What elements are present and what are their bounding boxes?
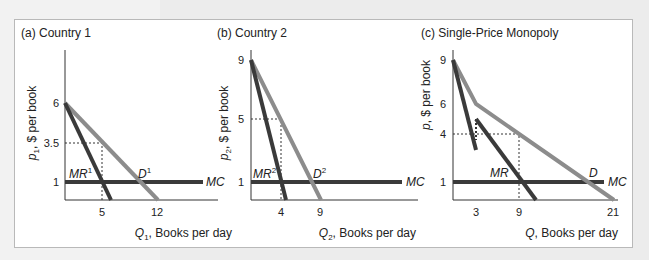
panel-c-x-label: Q, Books per day — [525, 226, 618, 240]
panel-c-mr-line-upper — [453, 60, 476, 150]
panel-b-ytick-9: 9 — [238, 54, 244, 66]
chart-svg: (a) Country 1 p1, $ per book 6 3.5 1 5 1… — [0, 0, 649, 260]
panel-c-xtick-3: 3 — [473, 206, 479, 218]
panel-a-xtick-12: 12 — [151, 206, 163, 218]
panel-a-ytick-6: 6 — [53, 97, 59, 109]
panel-a-x-label: Q1, Books per day — [135, 226, 232, 242]
panel-c-mr-line-lower — [476, 119, 536, 200]
panel-c-mc-label: MC — [608, 175, 627, 189]
panel-c-d-label: D — [589, 166, 598, 180]
panel-b-xtick-4: 4 — [278, 206, 284, 218]
panel-c-mr-label: MR — [490, 166, 509, 180]
panel-c-xtick-21: 21 — [607, 206, 619, 218]
panel-b-ytick-1: 1 — [238, 176, 244, 188]
panel-c-ytick-4: 4 — [440, 128, 446, 140]
panel-c-y-label: p, $ per book — [419, 59, 433, 131]
panel-b-ytick-5: 5 — [238, 113, 244, 125]
panel-a: (a) Country 1 p1, $ per book 6 3.5 1 5 1… — [21, 26, 232, 242]
panel-a-y-label: p1, $ per book — [25, 85, 41, 162]
panel-b: (b) Country 2 p2, $ per book 9 5 1 4 9 M… — [217, 26, 425, 242]
panel-a-ytick-1: 1 — [53, 176, 59, 188]
panel-a-title: (a) Country 1 — [21, 26, 91, 40]
panel-b-mc-label: MC — [406, 175, 425, 189]
panel-b-title: (b) Country 2 — [217, 26, 287, 40]
panel-a-demand-line — [65, 103, 158, 200]
panel-c-ytick-9: 9 — [440, 54, 446, 66]
panel-a-xtick-5: 5 — [99, 206, 105, 218]
panel-c: (c) Single-Price Monopoly p, $ per book … — [419, 26, 627, 240]
panel-c-title: (c) Single-Price Monopoly — [421, 26, 558, 40]
panel-b-x-label: Q2, Books per day — [319, 226, 416, 242]
panel-c-ytick-6: 6 — [440, 98, 446, 110]
panel-a-mr-label: MR1 — [69, 166, 93, 181]
panel-a-d-label: D1 — [138, 166, 152, 181]
panel-a-ytick-3.5: 3.5 — [44, 137, 59, 149]
panel-c-ytick-1: 1 — [440, 176, 446, 188]
panel-a-mc-label: MC — [206, 175, 225, 189]
panel-b-xtick-9: 9 — [317, 206, 323, 218]
panel-b-y-label: p2, $ per book — [217, 85, 233, 162]
panel-b-mr-label: MR2 — [253, 166, 277, 181]
panel-a-mr-line — [65, 103, 111, 200]
panel-c-xtick-9: 9 — [516, 206, 522, 218]
panel-b-d-label: D2 — [313, 166, 327, 181]
